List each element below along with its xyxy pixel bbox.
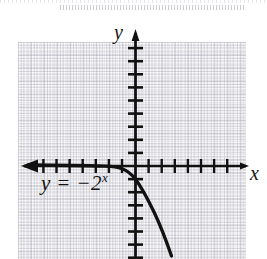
equation-operator: = xyxy=(51,171,77,195)
coordinate-plane xyxy=(0,0,267,259)
y-axis-label: y xyxy=(114,22,123,42)
equation-sign: − xyxy=(77,171,91,195)
x-axis-right-arrowhead xyxy=(240,162,249,169)
y-axis-top-arrowhead xyxy=(132,29,140,41)
equation-exponent: x xyxy=(102,170,108,185)
math-figure: y x y = −2x xyxy=(0,0,267,259)
x-axis-label: x xyxy=(250,163,259,183)
equation-annotation: y = −2x xyxy=(41,171,108,194)
equation-base: 2 xyxy=(91,171,102,195)
equation-lhs: y xyxy=(41,171,51,195)
